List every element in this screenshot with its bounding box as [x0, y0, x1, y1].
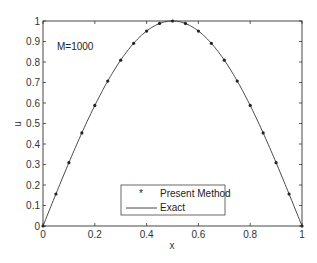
legend-label-present-method: Present Method: [160, 188, 231, 199]
data-point: [132, 42, 135, 45]
data-point: [67, 161, 70, 164]
legend: * Present Method Exact: [121, 185, 231, 215]
data-point: [287, 192, 290, 195]
data-point: [275, 161, 278, 164]
data-point: [262, 131, 265, 134]
x-axis-label: x: [170, 240, 175, 251]
data-point: [93, 104, 96, 107]
legend-label-exact: Exact: [160, 202, 185, 213]
data-point: [236, 79, 239, 82]
x-tick-label: 0.8: [243, 229, 257, 240]
data-point: [249, 104, 252, 107]
y-tick-label: 0.1: [26, 200, 40, 211]
y-tick-label: 0.6: [26, 98, 40, 109]
data-point: [54, 192, 57, 195]
y-tick-label: 0.4: [26, 139, 40, 150]
data-point: [210, 42, 213, 45]
data-point: [223, 59, 226, 62]
data-point: [119, 59, 122, 62]
data-point: [184, 22, 187, 25]
chart: 00.20.40.60.81 00.10.20.30.40.50.60.70.8…: [0, 0, 317, 263]
star-marker-icon: *: [139, 188, 143, 199]
x-tick-label: 0: [40, 229, 46, 240]
y-axis-label: u: [12, 121, 23, 127]
y-tick-label: 0.7: [26, 77, 40, 88]
data-point: [145, 29, 148, 32]
x-tick-label: 0.6: [191, 229, 205, 240]
y-tick-label: 0.2: [26, 180, 40, 191]
y-tick-label: 0: [34, 221, 40, 232]
data-point: [80, 131, 83, 134]
data-point: [158, 22, 161, 25]
annotation-m: M=1000: [57, 41, 94, 52]
x-tick-label: 1: [299, 229, 305, 240]
x-tick-label: 0.2: [88, 229, 102, 240]
data-point: [106, 79, 109, 82]
data-point: [171, 19, 174, 22]
y-tick-label: 0.9: [26, 36, 40, 47]
y-tick-label: 1: [34, 16, 40, 27]
x-tick-label: 0.4: [140, 229, 154, 240]
y-tick-label: 0.3: [26, 159, 40, 170]
y-tick-label: 0.8: [26, 57, 40, 68]
data-point: [197, 29, 200, 32]
y-tick-label: 0.5: [26, 118, 40, 129]
